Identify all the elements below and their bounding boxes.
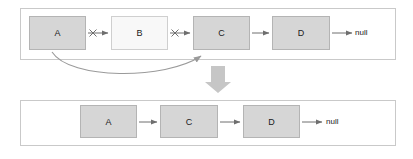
node-a-before: A: [29, 16, 86, 50]
null-label-after: null: [326, 117, 338, 126]
node-c-after: C: [160, 105, 218, 138]
node-c-before: C: [193, 16, 250, 50]
down-arrow-icon: [205, 66, 231, 93]
linked-list-deletion-diagram: A B C D null A C D null: [0, 0, 413, 159]
node-d-before: D: [272, 16, 330, 50]
node-b-before-removed: B: [111, 16, 168, 50]
node-a-after: A: [80, 105, 137, 138]
null-label-before: null: [355, 28, 367, 37]
node-d-after: D: [243, 105, 300, 138]
